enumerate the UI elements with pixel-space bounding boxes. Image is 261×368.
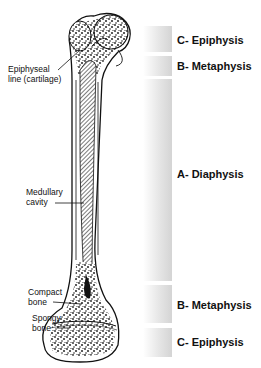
callout-spongy-bone: Spongy bone <box>32 313 61 333</box>
callout-spongy-bone-line2: bone <box>32 323 61 333</box>
callout-epiphyseal-line-line2: line (cartilage) <box>8 74 61 84</box>
callout-spongy-bone-line1: Spongy <box>32 313 61 323</box>
callout-epiphyseal-line: Epiphyseal line (cartilage) <box>8 64 61 84</box>
callout-medullary-cavity: Medullary cavity <box>26 187 63 207</box>
callout-compact-bone: Compact bone <box>28 287 62 307</box>
callout-epiphyseal-line-line1: Epiphyseal <box>8 64 61 74</box>
callout-compact-bone-line1: Compact <box>28 287 62 297</box>
callout-medullary-cavity-line2: cavity <box>26 197 63 207</box>
callout-compact-bone-line2: bone <box>28 297 62 307</box>
callout-medullary-cavity-line1: Medullary <box>26 187 63 197</box>
